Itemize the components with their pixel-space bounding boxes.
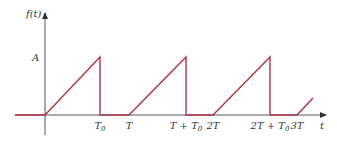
sawtooth-waveform bbox=[15, 57, 313, 115]
tick-label: T0 bbox=[94, 120, 106, 133]
tick-label: 2T + T0 bbox=[250, 120, 290, 133]
x-axis-label: t bbox=[320, 120, 325, 131]
tick-labels: T0TT + T02T2T + T03T bbox=[94, 120, 304, 133]
tick-label: T bbox=[126, 120, 134, 131]
y-axis-label: f(t) bbox=[25, 8, 42, 19]
tick-label: T + T0 bbox=[170, 120, 203, 133]
amplitude-label: A bbox=[31, 52, 39, 63]
tick-label: 2T bbox=[205, 120, 220, 131]
sawtooth-diagram: f(t) A t T0TT + T02T2T + T03T bbox=[0, 0, 337, 145]
tick-label: 3T bbox=[290, 120, 304, 131]
